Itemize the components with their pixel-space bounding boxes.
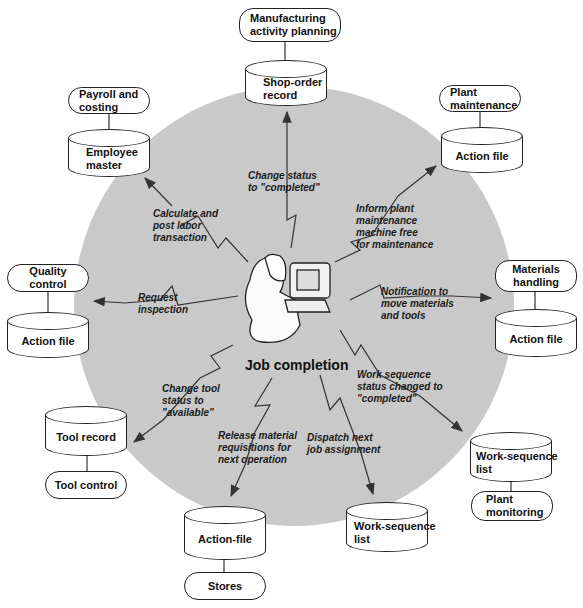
function-manufacturing-activity-planning: Manufacturing activity planning bbox=[239, 8, 341, 42]
function-quality-control: Quality control bbox=[7, 264, 89, 292]
function-label: Tool control bbox=[55, 479, 118, 492]
file-label: Action-file bbox=[184, 526, 266, 552]
message-request-inspection: Request inspection bbox=[138, 292, 188, 316]
file-tool-record: Tool record bbox=[45, 406, 127, 456]
file-label: Action file bbox=[7, 332, 89, 350]
message-work-sequence-status: Work sequence status changed to "complet… bbox=[357, 369, 443, 405]
function-label: Materials handling bbox=[512, 263, 560, 289]
message-inform-plant-maintenance: Inform plant maintenance machine free fo… bbox=[356, 203, 433, 251]
message-change-status: Change status to "completed" bbox=[248, 170, 320, 194]
center-title: Job completion bbox=[245, 357, 348, 373]
file-label: Action file bbox=[495, 329, 577, 349]
file-label: Action file bbox=[441, 147, 523, 165]
operator-figure bbox=[245, 254, 330, 342]
message-dispatch-next-job: Dispatch next job assignment bbox=[307, 432, 380, 456]
message-release-material: Release material requisitions for next o… bbox=[218, 430, 297, 466]
message-calculate-labor: Calculate and post labor transaction bbox=[153, 208, 218, 244]
file-work-sequence-list-dispatch: Work-sequence list bbox=[346, 502, 428, 552]
function-label: Plant monitoring bbox=[482, 493, 543, 519]
file-shop-order-record: Shop-order record bbox=[245, 60, 327, 106]
file-materials-action-file: Action file bbox=[495, 309, 577, 357]
function-materials-handling: Materials handling bbox=[495, 260, 577, 292]
function-label: Quality control bbox=[29, 265, 66, 291]
function-tool-control: Tool control bbox=[45, 471, 127, 499]
message-notification-move-materials: Notification to move materials and tools bbox=[381, 286, 454, 322]
file-stores-action-file: Action-file bbox=[184, 506, 266, 560]
function-label: Manufacturing activity planning bbox=[250, 12, 337, 38]
message-change-tool-status: Change tool status to "available" bbox=[162, 383, 220, 419]
file-plant-maintenance-action-file: Action file bbox=[441, 127, 523, 173]
function-payroll-and-costing: Payroll and costing bbox=[68, 87, 150, 114]
file-label: Work-sequence list bbox=[346, 522, 428, 544]
function-label: Plant maintenance bbox=[450, 86, 517, 112]
file-label: Tool record bbox=[45, 426, 127, 448]
file-work-sequence-list-monitoring: Work-sequence list bbox=[470, 432, 552, 482]
function-label: Payroll and costing bbox=[79, 88, 138, 114]
function-plant-monitoring: Plant monitoring bbox=[471, 491, 553, 521]
file-quality-action-file: Action file bbox=[7, 312, 89, 358]
job-completion-diagram: Job completion Manufacturing activity pl… bbox=[0, 0, 583, 608]
file-label: Work-sequence list bbox=[470, 452, 552, 474]
file-label: Employee master bbox=[68, 149, 150, 169]
file-employee-master: Employee master bbox=[68, 129, 150, 177]
file-label: Shop-order record bbox=[245, 80, 327, 98]
function-label: Stores bbox=[208, 580, 242, 593]
function-plant-maintenance: Plant maintenance bbox=[439, 85, 521, 112]
function-stores: Stores bbox=[184, 572, 266, 600]
